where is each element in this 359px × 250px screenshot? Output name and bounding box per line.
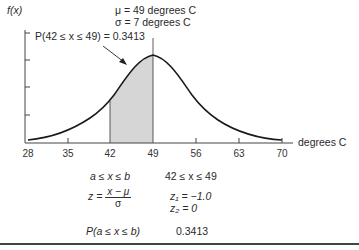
interval-specific: 42 ≤ x ≤ 49	[165, 170, 217, 182]
probability-annotation: P(42 ≤ x ≤ 49) = 0.3413	[35, 30, 145, 42]
z-numerator: x − μ	[105, 186, 131, 198]
z-formula-prefix: z =	[88, 190, 102, 202]
x-axis-label: degrees C	[298, 136, 346, 148]
x-tick-63: 63	[233, 148, 244, 159]
y-axis-label: f(x)	[7, 4, 22, 16]
interval-general: a ≤ x ≤ b	[90, 170, 130, 182]
z-formula: z = x − μ σ	[88, 186, 131, 209]
z2-value: z₂ = 0	[170, 202, 197, 214]
x-tick-28: 28	[22, 148, 33, 159]
sigma-label: σ = 7 degrees C	[115, 16, 191, 28]
probability-general: P(a ≤ x ≤ b)	[86, 225, 140, 237]
normal-curve	[28, 55, 282, 140]
annotation-arrow	[103, 46, 124, 62]
z1-value: z₁ = −1.0	[170, 190, 211, 202]
x-tick-56: 56	[190, 148, 201, 159]
z-fraction: x − μ σ	[105, 186, 131, 209]
x-tick-49: 49	[147, 148, 158, 159]
x-tick-70: 70	[276, 148, 287, 159]
mu-label: μ = 49 degrees C	[115, 4, 196, 16]
shaded-area	[110, 55, 153, 143]
z-denominator: σ	[105, 198, 131, 209]
x-tick-42: 42	[104, 148, 115, 159]
probability-value: 0.3413	[176, 225, 208, 237]
bottom-rule	[0, 243, 359, 245]
x-tick-35: 35	[62, 148, 73, 159]
